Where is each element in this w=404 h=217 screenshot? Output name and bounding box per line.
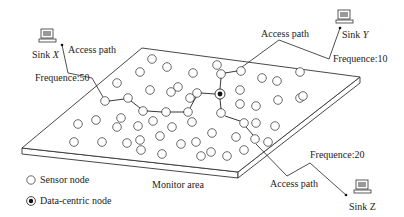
frequency-x-label: Frequence:50 <box>35 72 89 83</box>
legend-data-centric-node: Data-centric node <box>27 195 112 206</box>
legend: Sensor node Data-centric node <box>27 174 112 206</box>
access-path-x-label: Access path <box>68 44 116 55</box>
frequency-z-label: Frequence:20 <box>310 149 364 160</box>
sink-y-label: Sink Y <box>342 29 370 40</box>
sink-z-label: Sink Z <box>349 201 376 212</box>
sink-z-computer-icon <box>354 180 371 193</box>
sink-x-label: Sink X <box>32 49 60 60</box>
data-centric-node <box>215 89 225 99</box>
sensor-node-icon <box>27 176 35 184</box>
access-path-z-label: Access path <box>270 178 318 189</box>
legend-data-centric-node-label: Data-centric node <box>40 195 112 206</box>
sink-x-computer-icon <box>39 29 56 42</box>
frequency-y-label: Frequence:10 <box>333 53 387 64</box>
access-path-y-label: Access path <box>261 28 309 39</box>
network-diagram: Sink X Access path Frequence:50 Sink Y A… <box>0 0 404 217</box>
sink-y-computer-icon <box>336 10 353 23</box>
monitor-area-label: Monitor area <box>152 179 204 190</box>
legend-sensor-node-label: Sensor node <box>40 174 90 185</box>
legend-sensor-node: Sensor node <box>27 174 90 185</box>
